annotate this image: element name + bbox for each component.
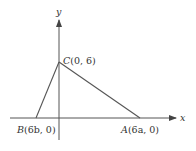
point-a-coords: (6a, 0) (128, 124, 159, 135)
triangle-diagram: y x C(0, 6) B(6b, 0) A(6a, 0) (0, 0, 196, 151)
point-c-label: C(0, 6) (63, 55, 96, 66)
side-bc (36, 62, 59, 118)
side-ca (59, 62, 140, 118)
point-b-name: B (16, 124, 24, 135)
point-a-label: A(6a, 0) (120, 124, 159, 135)
point-c-coords: (0, 6) (70, 55, 96, 66)
x-axis-label: x (180, 112, 186, 123)
point-a-name: A (120, 124, 128, 135)
point-b-label: B(6b, 0) (16, 124, 56, 135)
y-axis-label: y (55, 6, 62, 17)
point-b-coords: (6b, 0) (24, 124, 56, 135)
